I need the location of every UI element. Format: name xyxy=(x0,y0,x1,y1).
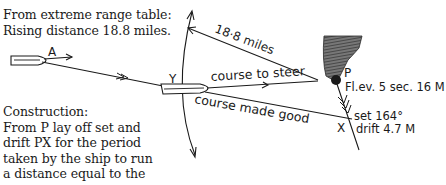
label-a: A xyxy=(48,45,57,59)
label-set: set 164° xyxy=(354,109,403,123)
light-characteristic: Fl.ev. 5 sec. 16 M xyxy=(345,80,445,94)
navigation-diagram: A Y 18·8 miles course to steer course ma… xyxy=(0,0,446,185)
lighthouse-icon xyxy=(331,75,341,85)
label-drift: drift 4.7 M xyxy=(356,122,415,136)
label-x: X xyxy=(337,121,345,135)
label-course-made-good: course made good xyxy=(193,91,310,126)
ship-a-icon xyxy=(11,56,46,65)
label-p: P xyxy=(344,66,351,80)
label-course-to-steer: course to steer xyxy=(210,63,306,84)
track-a-to-y xyxy=(42,62,168,87)
label-distance: 18·8 miles xyxy=(213,22,276,57)
land-mass xyxy=(323,36,362,81)
